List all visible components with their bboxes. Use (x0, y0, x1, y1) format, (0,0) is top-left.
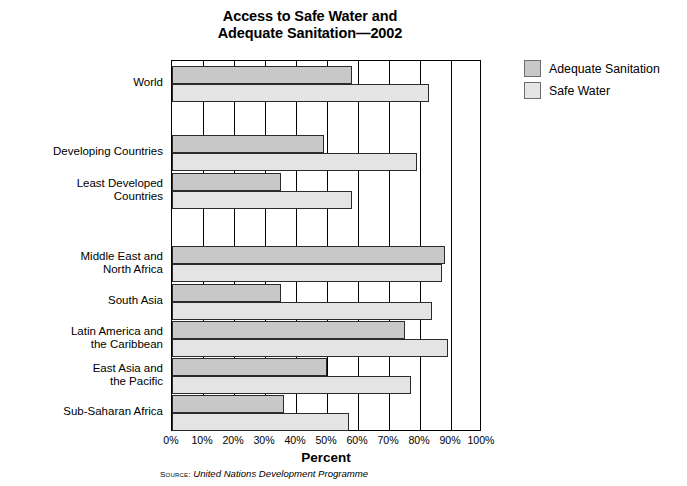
category-label-line: Latin America and (0, 325, 163, 339)
category-label: Middle East andNorth Africa (0, 250, 163, 277)
source-label: Source: (160, 470, 191, 479)
bar (172, 284, 281, 302)
category-label-line: the Caribbean (0, 338, 163, 352)
bar (172, 339, 448, 357)
category-label-line: Sub-Saharan Africa (0, 405, 163, 419)
legend-label: Safe Water (549, 84, 610, 98)
bar (172, 321, 405, 339)
bar (172, 135, 324, 153)
legend-swatch-icon (524, 60, 541, 77)
x-axis-tick-labels: 0%10%20%30%40%50%60%70%80%90%100% (171, 434, 481, 450)
x-tick-label: 10% (191, 434, 212, 446)
legend-swatch-icon (524, 82, 541, 99)
bar (172, 395, 284, 413)
source-note: Source: United Nations Development Progr… (160, 468, 560, 479)
bar (172, 173, 281, 191)
chart-title-line-2: Adequate Sanitation—2002 (140, 25, 480, 42)
x-axis-title: Percent (171, 450, 481, 465)
plot-area (171, 60, 481, 431)
bar (172, 84, 429, 102)
chart-legend: Adequate SanitationSafe Water (524, 60, 684, 104)
category-label: Sub-Saharan Africa (0, 405, 163, 419)
bar (172, 376, 411, 394)
chart-title-line-1: Access to Safe Water and (140, 8, 480, 25)
category-label: South Asia (0, 294, 163, 308)
legend-item: Adequate Sanitation (524, 60, 684, 77)
bar (172, 302, 432, 320)
x-tick-label: 80% (408, 434, 429, 446)
category-label-line: East Asia and (0, 362, 163, 376)
x-tick-label: 40% (284, 434, 305, 446)
category-label-line: North Africa (0, 263, 163, 277)
y-axis-category-labels: WorldDeveloping CountriesLeast Developed… (0, 60, 167, 431)
chart-title: Access to Safe Water and Adequate Sanita… (140, 8, 480, 42)
category-label-line: World (0, 76, 163, 90)
bar (172, 191, 352, 209)
chart-figure: Access to Safe Water and Adequate Sanita… (0, 0, 687, 486)
x-tick-label: 90% (439, 434, 460, 446)
x-tick-label: 50% (315, 434, 336, 446)
bar (172, 264, 442, 282)
bar (172, 358, 327, 376)
x-tick-label: 100% (467, 434, 494, 446)
category-label-line: Least Developed (0, 177, 163, 191)
legend-label: Adequate Sanitation (549, 62, 660, 76)
category-label-line: Developing Countries (0, 145, 163, 159)
x-tick-label: 20% (222, 434, 243, 446)
x-tick-label: 60% (346, 434, 367, 446)
bar (172, 246, 445, 264)
source-text: United Nations Development Programme (193, 468, 368, 479)
bar (172, 153, 417, 171)
x-tick-label: 0% (163, 434, 178, 446)
category-label-line: the Pacific (0, 375, 163, 389)
category-label-line: South Asia (0, 294, 163, 308)
category-label: Developing Countries (0, 145, 163, 159)
bar (172, 413, 349, 431)
category-label-line: Middle East and (0, 250, 163, 264)
category-label: Latin America andthe Caribbean (0, 325, 163, 352)
x-tick-label: 30% (253, 434, 274, 446)
category-label: World (0, 76, 163, 90)
category-label-line: Countries (0, 190, 163, 204)
x-tick-label: 70% (377, 434, 398, 446)
bars-layer (172, 61, 480, 430)
legend-item: Safe Water (524, 82, 684, 99)
bar (172, 66, 352, 84)
category-label: East Asia andthe Pacific (0, 362, 163, 389)
category-label: Least DevelopedCountries (0, 177, 163, 204)
